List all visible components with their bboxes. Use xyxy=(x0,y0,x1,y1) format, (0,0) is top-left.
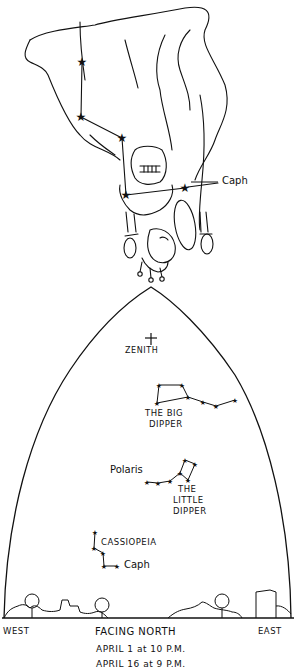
svg-text:★: ★ xyxy=(182,457,188,465)
east-label: EAST xyxy=(258,627,282,636)
caph-label-figure: Caph xyxy=(222,176,248,186)
time-april-1: APRIL 1 at 10 P.M. xyxy=(96,645,186,654)
svg-text:★: ★ xyxy=(76,110,87,124)
svg-text:★: ★ xyxy=(156,382,162,390)
svg-text:★: ★ xyxy=(92,529,98,537)
svg-text:★: ★ xyxy=(200,399,206,407)
big-dipper-label-line2: DIPPER xyxy=(149,420,183,429)
svg-text:★: ★ xyxy=(77,55,88,69)
time-april-16: APRIL 16 at 9 P.M. xyxy=(96,660,186,669)
svg-text:★: ★ xyxy=(185,394,191,402)
zenith-label: ZENITH xyxy=(125,347,158,355)
little-dipper-label-line3: DIPPER xyxy=(173,507,207,516)
horizon-skyline xyxy=(4,590,291,618)
little-dipper-label-line2: LITTLE xyxy=(173,496,204,505)
big-dipper-lines xyxy=(157,385,235,406)
zenith-marker xyxy=(145,333,157,345)
little-dipper-label-line1: THE xyxy=(178,485,196,494)
svg-text:★: ★ xyxy=(121,188,132,202)
svg-text:★: ★ xyxy=(144,479,150,487)
figure-stars: ★ ★ ★ ★ ★ xyxy=(76,55,191,202)
svg-text:★: ★ xyxy=(180,181,191,195)
big-dipper-label-line1: THE BIG xyxy=(145,409,183,418)
svg-text:★: ★ xyxy=(192,461,198,469)
svg-text:★: ★ xyxy=(91,545,97,553)
svg-text:★: ★ xyxy=(101,563,107,571)
svg-text:★: ★ xyxy=(117,131,128,145)
facing-north-label: FACING NORTH xyxy=(95,627,176,637)
cassiopeia-label: CASSIOPEIA xyxy=(101,538,157,547)
svg-text:★: ★ xyxy=(100,550,106,558)
svg-text:★: ★ xyxy=(154,400,160,408)
svg-text:★: ★ xyxy=(167,478,173,486)
polaris-label: Polaris xyxy=(110,465,143,475)
svg-text:★: ★ xyxy=(232,397,238,405)
caph-label-chart: Caph xyxy=(124,560,150,570)
star-chart-illustration: ★ ★ ★ ★ ★ ★★★★ ★★★ ★★★★ ★★★ ★★★★★ xyxy=(0,0,296,672)
svg-text:★: ★ xyxy=(213,403,219,411)
west-label: WEST xyxy=(3,627,29,636)
svg-text:★: ★ xyxy=(177,470,183,478)
svg-text:★: ★ xyxy=(155,480,161,488)
svg-text:★: ★ xyxy=(114,563,120,571)
svg-text:★: ★ xyxy=(179,382,185,390)
